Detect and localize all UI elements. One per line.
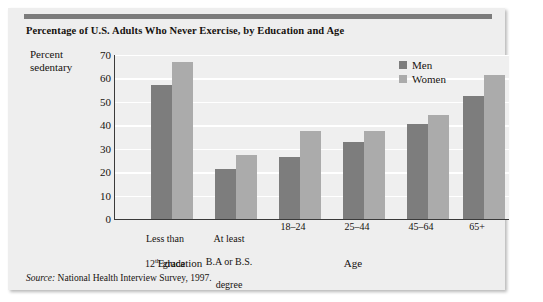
x-category-label-5: 65+: [432, 221, 522, 233]
plot-area: 0 10 20 30 40 50 60 70: [114, 55, 509, 220]
legend: Men Women: [399, 58, 446, 86]
y-tick-label-40: 40: [100, 119, 111, 131]
bar-men: [343, 142, 364, 219]
x-group-label-education: Education: [125, 257, 235, 269]
bar-men: [279, 157, 300, 219]
legend-swatch-men: [399, 61, 407, 69]
bar-women: [300, 131, 321, 219]
y-tick-label-70: 70: [100, 49, 111, 61]
y-tick-label-0: 0: [106, 213, 112, 225]
bar-women: [484, 75, 505, 219]
bar-group: [343, 55, 385, 219]
bar-men: [463, 96, 484, 219]
y-tick-label-20: 20: [100, 166, 111, 178]
figure-card: Percentage of U.S. Adults Who Never Exer…: [8, 8, 505, 290]
title-rule: [24, 14, 492, 19]
x-category-label-1-line1: At least: [184, 233, 274, 245]
x-group-label-age: Age: [298, 257, 408, 269]
bar-women: [236, 155, 257, 219]
y-axis-title-line2: sedentary: [30, 61, 100, 74]
y-tick-label-30: 30: [100, 143, 111, 155]
source-note: Source: National Health Interview Survey…: [26, 273, 212, 283]
y-tick-label-60: 60: [100, 72, 111, 84]
y-axis-title: Percent sedentary: [30, 48, 100, 74]
y-axis-title-line1: Percent: [30, 48, 100, 61]
bar-men: [407, 124, 428, 219]
bar-women: [172, 62, 193, 219]
legend-label-men: Men: [412, 59, 432, 71]
bar-group: [215, 55, 257, 219]
bar-women: [364, 131, 385, 219]
source-label: Source:: [26, 273, 55, 283]
bar-group: [279, 55, 321, 219]
bar-group: [151, 55, 193, 219]
legend-item-men: Men: [399, 58, 446, 72]
chart-title: Percentage of U.S. Adults Who Never Exer…: [26, 25, 492, 36]
bar-men: [215, 169, 236, 219]
legend-label-women: Women: [412, 73, 446, 85]
y-tick-label-10: 10: [100, 190, 111, 202]
bar-women: [428, 115, 449, 219]
legend-swatch-women: [399, 75, 407, 83]
bar-men: [151, 85, 172, 219]
y-tick-label-50: 50: [100, 96, 111, 108]
bar-group: [463, 55, 505, 219]
source-text: National Health Interview Survey, 1997.: [55, 273, 211, 283]
legend-item-women: Women: [399, 72, 446, 86]
